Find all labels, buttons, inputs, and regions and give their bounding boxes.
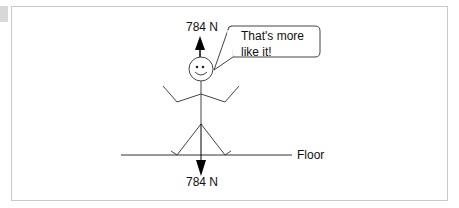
down-force-arrow	[196, 124, 206, 176]
top-force-label: 784 N	[186, 20, 218, 34]
diagram-canvas	[0, 0, 459, 208]
speech-line-1: That's more	[241, 28, 321, 44]
speech-bubble-text: That's more like it!	[241, 28, 321, 60]
bottom-force-label: 784 N	[186, 175, 218, 189]
right-eye	[202, 66, 205, 69]
left-eye	[196, 66, 199, 69]
speech-line-2: like it!	[241, 44, 321, 60]
up-force-arrow	[195, 36, 205, 57]
floor-label: Floor	[297, 148, 324, 162]
